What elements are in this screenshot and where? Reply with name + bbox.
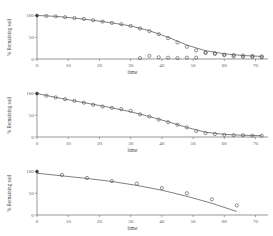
y-tick-label: 100 <box>26 169 34 174</box>
x-tick-label: 70 <box>253 141 259 146</box>
y-axis-title: % Remaining soil <box>6 18 12 56</box>
x-tick-label: 40 <box>159 63 165 68</box>
x-tick-label: 60 <box>222 219 228 224</box>
y-tick-label: 0 <box>31 57 34 62</box>
data-point <box>223 133 226 136</box>
x-axis-title: time <box>128 225 138 231</box>
data-point <box>232 134 235 137</box>
x-tick-label: 70 <box>253 63 259 68</box>
chart-svg-2: 010203040506070050100time% Remaining soi… <box>0 158 273 234</box>
y-tick-label: 50 <box>29 191 35 196</box>
x-axis-title: time <box>128 147 138 153</box>
y-axis-title: % Remaining soil <box>6 96 12 134</box>
fitted-curve <box>37 173 237 211</box>
y-axis-title: % Remaining soil <box>6 174 12 212</box>
x-tick-label: 50 <box>191 219 197 224</box>
plot-panel-middle: 010203040506070050100time% Remaining soi… <box>0 80 273 156</box>
data-point <box>195 49 198 52</box>
x-tick-label: 20 <box>97 141 103 146</box>
data-point <box>36 170 39 173</box>
x-tick-label: 20 <box>97 219 103 224</box>
x-tick-label: 10 <box>66 141 72 146</box>
chart-svg-0: 010203040506070050100time% Remaining soi… <box>0 2 273 78</box>
y-tick-label: 100 <box>26 91 34 96</box>
x-tick-label: 30 <box>128 63 134 68</box>
y-tick-label: 100 <box>26 13 34 18</box>
fitted-curve <box>37 15 262 56</box>
plot-panel-top: 010203040506070050100time% Remaining soi… <box>0 2 273 78</box>
data-point <box>135 182 138 185</box>
x-tick-label: 40 <box>159 219 165 224</box>
x-tick-label: 40 <box>159 141 165 146</box>
x-tick-label: 50 <box>191 141 197 146</box>
y-tick-label: 0 <box>31 135 34 140</box>
x-tick-label: 0 <box>36 63 39 68</box>
data-point <box>157 56 160 59</box>
fitted-curve <box>37 93 262 135</box>
x-tick-label: 50 <box>191 63 197 68</box>
data-point <box>160 186 163 189</box>
chart-svg-1: 010203040506070050100time% Remaining soi… <box>0 80 273 156</box>
y-tick-label: 0 <box>31 213 34 218</box>
data-point <box>185 192 188 195</box>
x-tick-label: 0 <box>36 219 39 224</box>
x-tick-label: 60 <box>222 141 228 146</box>
x-tick-label: 60 <box>222 63 228 68</box>
y-tick-label: 50 <box>29 113 35 118</box>
x-tick-label: 70 <box>253 219 259 224</box>
x-axis-title: time <box>128 69 138 75</box>
x-tick-label: 0 <box>36 141 39 146</box>
x-tick-label: 30 <box>128 141 134 146</box>
x-tick-label: 10 <box>66 63 72 68</box>
x-tick-label: 30 <box>128 219 134 224</box>
y-tick-label: 50 <box>29 35 35 40</box>
x-tick-label: 10 <box>66 219 72 224</box>
plot-panel-bottom: 010203040506070050100time% Remaining soi… <box>0 158 273 234</box>
data-point <box>210 198 213 201</box>
data-point <box>235 204 238 207</box>
data-point <box>148 54 151 57</box>
x-tick-label: 20 <box>97 63 103 68</box>
